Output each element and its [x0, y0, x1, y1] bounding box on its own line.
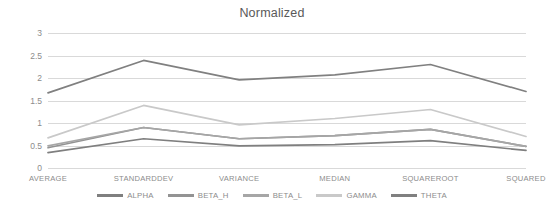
legend-item[interactable]: ALPHA [97, 191, 154, 200]
legend-label: ALPHA [127, 191, 154, 200]
x-tick-label: SQUARED [506, 174, 545, 183]
legend-label: BETA_H [198, 191, 229, 200]
legend-label: GAMMA [346, 191, 376, 200]
legend-color-swatch [97, 194, 123, 197]
x-tick-label: AVERAGE [29, 174, 67, 183]
y-tick-label: 2 [8, 73, 42, 83]
y-tick-label: 2.5 [8, 51, 42, 61]
y-tick-label: 1 [8, 118, 42, 128]
plot-area [48, 33, 526, 168]
x-tick-label: STANDARDDEV [114, 174, 174, 183]
x-tick-label: SQUAREROOT [402, 174, 459, 183]
legend-color-swatch [391, 194, 417, 197]
y-tick-label: 1.5 [8, 96, 42, 106]
series-line [48, 139, 526, 153]
legend-item[interactable]: BETA_H [168, 191, 229, 200]
y-tick-label: 0 [8, 163, 42, 173]
x-tick-label: MEDIAN [319, 174, 350, 183]
chart-legend: ALPHABETA_HBETA_LGAMMATHETA [0, 191, 544, 200]
legend-item[interactable]: GAMMA [316, 191, 376, 200]
legend-label: THETA [421, 191, 447, 200]
legend-label: BETA_L [273, 191, 303, 200]
x-tick-label: VARIANCE [219, 174, 259, 183]
y-tick-label: 3 [8, 28, 42, 38]
series-lines [48, 33, 526, 168]
legend-item[interactable]: BETA_L [243, 191, 303, 200]
legend-color-swatch [243, 194, 269, 197]
legend-item[interactable]: THETA [391, 191, 447, 200]
legend-color-swatch [316, 194, 342, 197]
y-tick-label: 0.5 [8, 141, 42, 151]
series-line [48, 60, 526, 92]
legend-color-swatch [168, 194, 194, 197]
x-axis-line [48, 168, 526, 169]
